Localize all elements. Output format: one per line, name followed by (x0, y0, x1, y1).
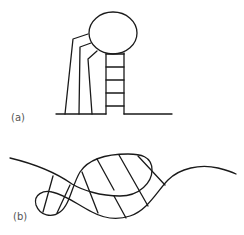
strand-inner (88, 51, 97, 114)
diagram-canvas (0, 0, 244, 235)
hatch-line (114, 196, 126, 218)
hatch-line (43, 176, 53, 212)
hatch-line (97, 159, 114, 190)
panel-a-drawing (56, 12, 172, 114)
loop-circle (89, 12, 137, 54)
hatch-line (138, 156, 165, 185)
panel-b-label: (b) (13, 211, 27, 222)
panel-a-label: (a) (11, 112, 25, 123)
panel-b-drawing (10, 154, 236, 218)
diagram-figure: (a) (b) (0, 0, 244, 235)
